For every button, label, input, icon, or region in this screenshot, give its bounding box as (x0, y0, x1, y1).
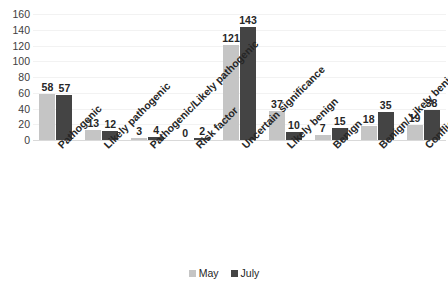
legend-label: July (241, 268, 260, 279)
bar-value-label: 0 (182, 128, 188, 139)
x-axis-category-labels: PathogenicLikely pathogenicPathogenic/Li… (33, 141, 446, 253)
bar-chart: 160140120100806040200 585713123402121143… (0, 0, 448, 298)
y-axis-tick-label: 60 (0, 88, 30, 98)
bar-slot: 35 (378, 14, 394, 140)
bar-may[interactable] (315, 135, 331, 141)
bar-group: 5857 (33, 14, 79, 140)
x-axis-tick-label: Benign (331, 143, 339, 151)
bar-slot: 57 (56, 14, 72, 140)
bar-may[interactable] (85, 130, 101, 140)
bar-may[interactable] (407, 125, 423, 140)
legend-swatch-icon (231, 270, 238, 277)
legend-item[interactable]: July (231, 268, 260, 279)
bar-value-label: 3 (136, 126, 142, 137)
bar-slot: 38 (424, 14, 440, 140)
bar-slot: 10 (286, 14, 302, 140)
y-axis-tick-label: 140 (0, 25, 30, 35)
y-axis-tick-label: 160 (0, 9, 30, 19)
y-axis-tick-label: 120 (0, 41, 30, 51)
bar-value-label: 143 (239, 15, 257, 26)
plot-area: 585713123402121143371071518351938 (33, 14, 446, 140)
bar-slot: 12 (102, 14, 118, 140)
bar-slot: 2 (194, 14, 210, 140)
bar-value-label: 35 (380, 100, 392, 111)
y-axis-tick-label: 100 (0, 56, 30, 66)
y-axis-tick-label: 80 (0, 72, 30, 82)
y-axis-tick-label: 20 (0, 119, 30, 129)
bar-may[interactable] (39, 94, 55, 140)
bar-value-label: 15 (334, 116, 346, 127)
bar-group: 1835 (354, 14, 400, 140)
bar-slot: 4 (148, 14, 164, 140)
bar-slot: 58 (39, 14, 55, 140)
bar-slot: 15 (332, 14, 348, 140)
chart-legend: MayJuly (0, 268, 448, 279)
x-axis-tick-label: Benign/ Likely benign (377, 143, 385, 151)
y-axis: 160140120100806040200 (0, 14, 30, 140)
bar-value-label: 18 (363, 114, 375, 125)
bar-value-label: 121 (222, 33, 240, 44)
legend-label: May (199, 268, 219, 279)
x-axis-tick-label: Pathogenic/Likely pathogenic (148, 143, 156, 151)
legend-swatch-icon (189, 270, 196, 277)
x-axis-tick-label: Pathogenic (56, 143, 64, 151)
bar-value-label: 58 (42, 82, 54, 93)
bar-slot: 143 (240, 14, 256, 140)
x-axis-tick-label: Risk factor (194, 143, 202, 151)
x-axis-tick-label: Uncertain significance (240, 143, 248, 151)
bar-may[interactable] (131, 138, 147, 140)
x-axis-tick-label: Conflicting interpretation (423, 143, 431, 151)
x-axis-tick-label: Likely pathogenic (102, 143, 110, 151)
legend-item[interactable]: May (189, 268, 219, 279)
y-axis-tick-label: 40 (0, 104, 30, 114)
x-axis-tick-label: Likely benign (285, 143, 293, 151)
y-axis-tick-label: 0 (0, 135, 30, 145)
bar-value-label: 7 (320, 123, 326, 134)
bar-value-label: 57 (59, 83, 71, 94)
bar-may[interactable] (361, 126, 377, 140)
bar-groups: 585713123402121143371071518351938 (33, 14, 446, 140)
bar-slot: 18 (361, 14, 377, 140)
